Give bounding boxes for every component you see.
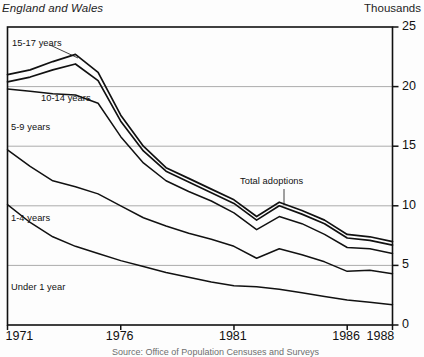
y-tick-25: 25 bbox=[402, 19, 416, 33]
adoptions-line-chart: England and Wales Thousands 0510152025 1… bbox=[0, 0, 424, 357]
series-label-5-9: 5-9 years bbox=[11, 122, 50, 132]
x-tick-1986: 1986 bbox=[332, 329, 360, 343]
plot-canvas bbox=[0, 0, 424, 357]
gridlines bbox=[8, 87, 393, 266]
source-note: Source: Office of Population Censuses an… bbox=[112, 347, 319, 357]
series-label-15-17: 15-17 years bbox=[12, 38, 62, 48]
series-label-under-1: Under 1 year bbox=[11, 282, 65, 292]
y-tick-0: 0 bbox=[402, 317, 409, 331]
y-tick-5: 5 bbox=[402, 257, 409, 271]
x-tick-1981: 1981 bbox=[219, 329, 247, 343]
axis-ticks bbox=[8, 27, 399, 330]
y-tick-15: 15 bbox=[402, 138, 416, 152]
y-tick-20: 20 bbox=[402, 79, 416, 93]
series-label-total-adoptions: Total adoptions bbox=[240, 176, 303, 186]
y-tick-10: 10 bbox=[402, 198, 416, 212]
x-tick-1988: 1988 bbox=[367, 329, 395, 343]
x-tick-1971: 1971 bbox=[6, 329, 34, 343]
series-label-10-14: 10-14 years bbox=[41, 93, 91, 103]
series-lines bbox=[8, 54, 393, 304]
series-label-1-4: 1-4 years bbox=[11, 213, 50, 223]
x-tick-1976: 1976 bbox=[106, 329, 134, 343]
